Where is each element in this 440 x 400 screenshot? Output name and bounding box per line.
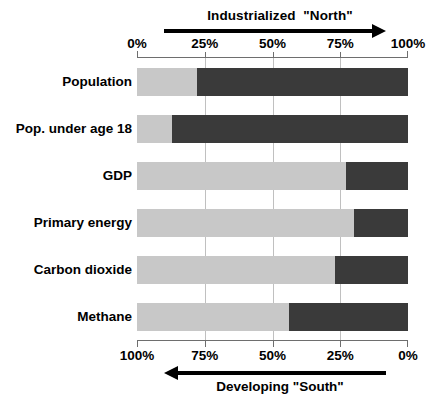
- stacked-bar-chart: Industrialized "North" 0%25%50%75%100% P…: [0, 0, 440, 400]
- bar-segment-north: [172, 115, 408, 143]
- bottom-axis-right-cap: [407, 340, 408, 347]
- axis-tick-label: 75%: [191, 348, 218, 363]
- axis-tick-mark: [273, 341, 274, 347]
- bar-track: [137, 209, 408, 237]
- axis-tick-mark: [340, 52, 341, 58]
- category-label: GDP: [1, 168, 132, 183]
- axis-tick-label: 0%: [398, 348, 418, 363]
- bottom-axis-tick-labels: 100%75%50%25%0%: [137, 348, 408, 364]
- category-label: Methane: [1, 309, 132, 324]
- axis-tick-mark: [205, 52, 206, 58]
- gridline: [205, 58, 206, 340]
- bar-segment-south: [137, 162, 346, 190]
- south-direction-arrow: [164, 366, 386, 380]
- axis-tick-label: 100%: [391, 36, 426, 51]
- gridline: [340, 58, 341, 340]
- axis-tick-mark: [273, 52, 274, 58]
- top-axis-caption: Industrialized "North": [155, 8, 405, 23]
- bar-track: [137, 68, 408, 96]
- category-label: Carbon dioxide: [1, 262, 132, 277]
- bottom-axis-left-cap: [137, 340, 138, 347]
- bar-segment-north: [335, 256, 408, 284]
- bar-segment-south: [137, 115, 172, 143]
- bar-segment-south: [137, 68, 197, 96]
- top-axis-left-cap: [137, 51, 138, 58]
- axis-tick-label: 75%: [327, 36, 354, 51]
- arrow-head-left-icon: [164, 366, 178, 380]
- category-axis-labels: PopulationPop. under age 18GDPPrimary en…: [0, 58, 132, 340]
- top-axis-right-cap: [407, 51, 408, 58]
- axis-tick-label: 25%: [327, 348, 354, 363]
- bar-track: [137, 303, 408, 331]
- category-label: Population: [1, 74, 132, 89]
- axis-tick-mark: [205, 341, 206, 347]
- plot-area: [137, 58, 408, 340]
- bottom-axis-caption: Developing "South": [155, 379, 405, 394]
- axis-tick-label: 100%: [120, 348, 155, 363]
- bar-track: [137, 256, 408, 284]
- bar-segment-north: [289, 303, 408, 331]
- bar-segment-north: [197, 68, 408, 96]
- axis-tick-label: 50%: [259, 348, 286, 363]
- arrow-shaft: [176, 371, 386, 375]
- gridline: [273, 58, 274, 340]
- bar-segment-south: [137, 256, 335, 284]
- axis-tick-label: 25%: [191, 36, 218, 51]
- bar-track: [137, 162, 408, 190]
- bar-track: [137, 115, 408, 143]
- axis-tick-label: 50%: [259, 36, 286, 51]
- bar-segment-north: [346, 162, 408, 190]
- axis-tick-label: 0%: [127, 36, 147, 51]
- axis-tick-mark: [340, 341, 341, 347]
- category-label: Pop. under age 18: [1, 121, 132, 136]
- arrow-shaft: [164, 29, 374, 33]
- bar-segment-north: [354, 209, 408, 237]
- category-label: Primary energy: [1, 215, 132, 230]
- bar-segment-south: [137, 209, 354, 237]
- bar-segment-south: [137, 303, 289, 331]
- top-axis-tick-labels: 0%25%50%75%100%: [137, 36, 408, 52]
